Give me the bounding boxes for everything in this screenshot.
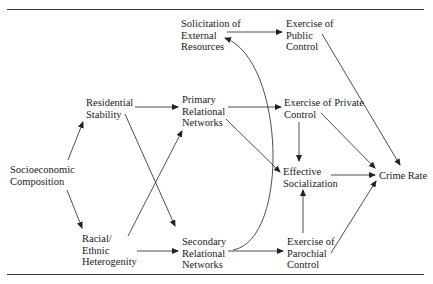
node-line: External	[181, 30, 241, 42]
node-line: Secondary	[182, 236, 226, 248]
edge-socioeconomic-residential	[68, 122, 83, 160]
node-line: Exercise of Private	[284, 97, 364, 109]
node-exercise-private-control: Exercise of Private Control	[284, 97, 364, 120]
node-line: Relational	[182, 106, 225, 118]
node-solicitation-external-resources: Solicitation of External Resources	[181, 18, 241, 53]
node-line: Networks	[182, 117, 225, 129]
node-secondary-relational-networks: Secondary Relational Networks	[182, 236, 226, 271]
node-residential-stability: Residential Stability	[86, 97, 133, 120]
node-line: Primary	[182, 94, 225, 106]
edge-parochial-crime	[331, 181, 376, 253]
node-crime-rate: Crime Rate	[379, 170, 427, 182]
edge-primary-socialization	[226, 119, 280, 172]
edge-private-crime	[321, 113, 375, 168]
node-exercise-public-control: Exercise of Public Control	[286, 18, 334, 53]
node-line: Effective	[283, 166, 338, 178]
node-line: Socialization	[283, 178, 338, 190]
edge-residential-secondary	[125, 114, 175, 226]
node-line: Socioeconomic	[10, 164, 75, 176]
node-line: Control	[284, 109, 364, 121]
node-line: Heterogenity	[82, 256, 137, 268]
node-line: Public	[286, 30, 334, 42]
node-line: Racial/	[82, 233, 137, 245]
node-exercise-parochial-control: Exercise of Parochial Control	[287, 236, 335, 271]
edge-racial-primary	[128, 131, 182, 236]
node-racial-ethnic-heterogenity: Racial/ Ethnic Heterogenity	[82, 233, 137, 268]
node-line: Control	[286, 41, 334, 53]
node-line: Parochial	[287, 248, 335, 260]
node-line: Resources	[181, 41, 241, 53]
node-line: Crime Rate	[379, 170, 427, 182]
node-primary-relational-networks: Primary Relational Networks	[182, 94, 225, 129]
node-line: Composition	[10, 176, 75, 188]
node-line: Exercise of	[287, 236, 335, 248]
node-line: Networks	[182, 259, 226, 271]
node-socioeconomic-composition: Socioeconomic Composition	[10, 164, 75, 187]
node-line: Exercise of	[286, 18, 334, 30]
edge-socioeconomic-racial	[67, 190, 82, 228]
node-line: Stability	[86, 109, 133, 121]
node-line: Relational	[182, 248, 226, 260]
node-line: Control	[287, 259, 335, 271]
node-effective-socialization: Effective Socialization	[283, 166, 338, 189]
node-line: Ethnic	[82, 245, 137, 257]
node-line: Solicitation of	[181, 18, 241, 30]
node-line: Residential	[86, 97, 133, 109]
edge-secondary-solicitation	[225, 38, 273, 250]
